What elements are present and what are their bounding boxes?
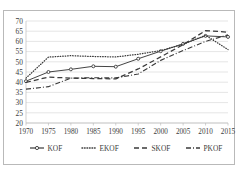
legend-label-ekof: EKOF xyxy=(100,144,119,153)
x-tick-label: 1995 xyxy=(131,128,146,136)
x-tick-label: 2005 xyxy=(176,128,191,136)
y-tick-label: 40 xyxy=(16,78,24,87)
x-tick-label: 1990 xyxy=(109,128,124,136)
legend-label-skof: SKOF xyxy=(152,144,171,153)
x-tick-label: 1985 xyxy=(86,128,101,136)
data-point-marker xyxy=(69,68,72,71)
y-tick-label: 70 xyxy=(16,17,24,26)
x-tick-label: 1980 xyxy=(64,128,79,136)
series-line-ekof xyxy=(26,35,228,78)
x-tick-label: 2010 xyxy=(198,128,213,136)
y-tick-label: 25 xyxy=(16,109,24,118)
line-chart: 2025303540455055606570 19701975198019851… xyxy=(4,11,236,166)
y-tick-label: 45 xyxy=(16,68,24,77)
y-tick-label: 35 xyxy=(16,88,24,97)
y-axis-tick-labels: 2025303540455055606570 xyxy=(16,17,24,128)
data-point-marker xyxy=(227,35,230,38)
y-tick-label: 65 xyxy=(16,27,24,36)
legend-label-kof: KOF xyxy=(48,144,63,153)
x-tick-label: 2015 xyxy=(221,128,236,136)
y-tick-label: 60 xyxy=(16,37,24,46)
data-point-marker xyxy=(114,65,117,68)
x-tick-label: 1975 xyxy=(41,128,56,136)
y-tick-label: 20 xyxy=(16,119,24,128)
figure-caption xyxy=(0,168,238,181)
gridlines-group xyxy=(26,21,228,123)
figure-container: 2025303540455055606570 19701975198019851… xyxy=(0,0,238,181)
x-axis-tick-labels: 1970197519801985199019952000200520102015 xyxy=(19,123,236,136)
y-tick-label: 30 xyxy=(16,98,24,107)
chart-frame: 2025303540455055606570 19701975198019851… xyxy=(3,10,235,165)
x-tick-label: 1970 xyxy=(19,128,34,136)
y-tick-label: 55 xyxy=(16,47,24,56)
y-tick-label: 50 xyxy=(16,58,24,67)
data-series-group xyxy=(25,31,230,90)
data-point-marker xyxy=(47,71,50,74)
series-line-kof xyxy=(26,36,228,81)
legend-label-pkof: PKOF xyxy=(204,144,223,153)
chart-legend: KOFEKOFSKOFPKOF xyxy=(30,144,222,153)
data-point-marker xyxy=(137,57,140,60)
legend-marker-kof xyxy=(35,146,38,149)
x-tick-label: 2000 xyxy=(153,128,168,136)
data-point-marker xyxy=(92,65,95,68)
